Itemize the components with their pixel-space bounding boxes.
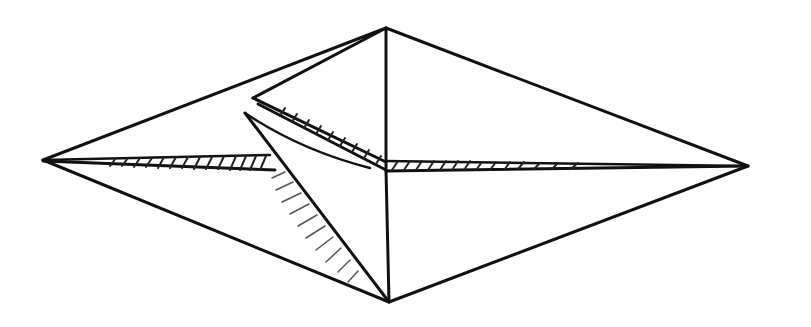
vertical-fold-line: [386, 28, 389, 302]
horizontal-fold-band: [43, 155, 748, 171]
origami-sketch: [0, 0, 811, 327]
